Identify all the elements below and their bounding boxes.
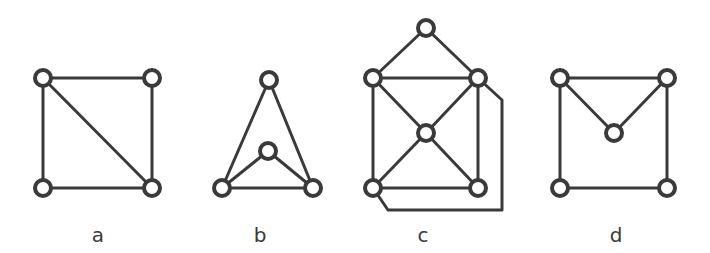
graph-b-vertex <box>305 180 321 196</box>
graph-a-label: a <box>92 223 104 247</box>
graph-d-edge <box>614 78 667 133</box>
graph-b-vertex <box>261 72 277 88</box>
graph-a <box>35 70 160 196</box>
graph-d-vertex <box>606 125 622 141</box>
graph-c <box>365 20 502 210</box>
graph-c-vertex <box>470 180 486 196</box>
graph-c-edge <box>426 28 478 78</box>
graph-c-edge <box>426 133 478 188</box>
graph-c-edge <box>426 78 478 133</box>
graph-d <box>552 70 675 196</box>
graph-d-vertex <box>552 70 568 86</box>
graph-c-edge <box>373 78 426 133</box>
graph-c-label: c <box>418 223 429 247</box>
graph-b-vertex <box>260 143 276 159</box>
graph-b-vertex <box>214 180 230 196</box>
graph-c-vertex <box>418 20 434 36</box>
graph-b <box>214 72 321 196</box>
graph-d-label: d <box>610 223 623 247</box>
graph-b-edge <box>222 80 269 188</box>
graph-c-vertex <box>418 125 434 141</box>
graph-d-vertex <box>659 180 675 196</box>
graph-c-vertex <box>470 70 486 86</box>
graph-b-label: b <box>254 223 267 247</box>
graph-a-edge <box>43 78 152 188</box>
graph-figure: a b c d <box>0 0 710 253</box>
graph-c-vertex <box>365 180 381 196</box>
graph-d-edge <box>560 78 614 133</box>
graph-c-edge <box>373 28 426 78</box>
graph-a-vertex <box>144 180 160 196</box>
graph-c-edge <box>373 133 426 188</box>
graph-a-vertex <box>35 70 51 86</box>
graph-a-vertex <box>35 180 51 196</box>
graph-a-vertex <box>144 70 160 86</box>
graph-d-vertex <box>552 180 568 196</box>
graph-d-vertex <box>659 70 675 86</box>
graph-c-vertex <box>365 70 381 86</box>
